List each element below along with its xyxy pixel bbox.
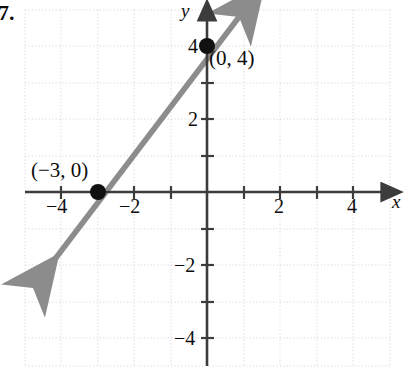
label-x-intercept: (−3, 0)	[31, 160, 88, 181]
y-axis-label: y	[181, 1, 189, 20]
x-tick-label-neg4: −4	[46, 196, 67, 216]
y-tick-label-neg4: −4	[174, 328, 195, 348]
x-tick-label-neg2: −2	[119, 196, 140, 216]
graph-figure: 7. y x −4 −2 2 4 4 2 −2 −4 (0, 4) (−3, 0…	[0, 0, 411, 372]
problem-number: 7.	[0, 2, 15, 24]
x-axis-label: x	[392, 192, 400, 211]
y-tick-label-neg2: −2	[174, 255, 195, 275]
point-x-intercept	[90, 184, 106, 200]
y-tick-label-2: 2	[188, 109, 198, 129]
label-y-intercept: (0, 4)	[209, 48, 255, 69]
x-tick-label-4: 4	[347, 196, 357, 216]
y-tick-label-4: 4	[188, 36, 198, 56]
coordinate-plane-svg	[0, 0, 411, 372]
x-tick-label-2: 2	[274, 196, 284, 216]
